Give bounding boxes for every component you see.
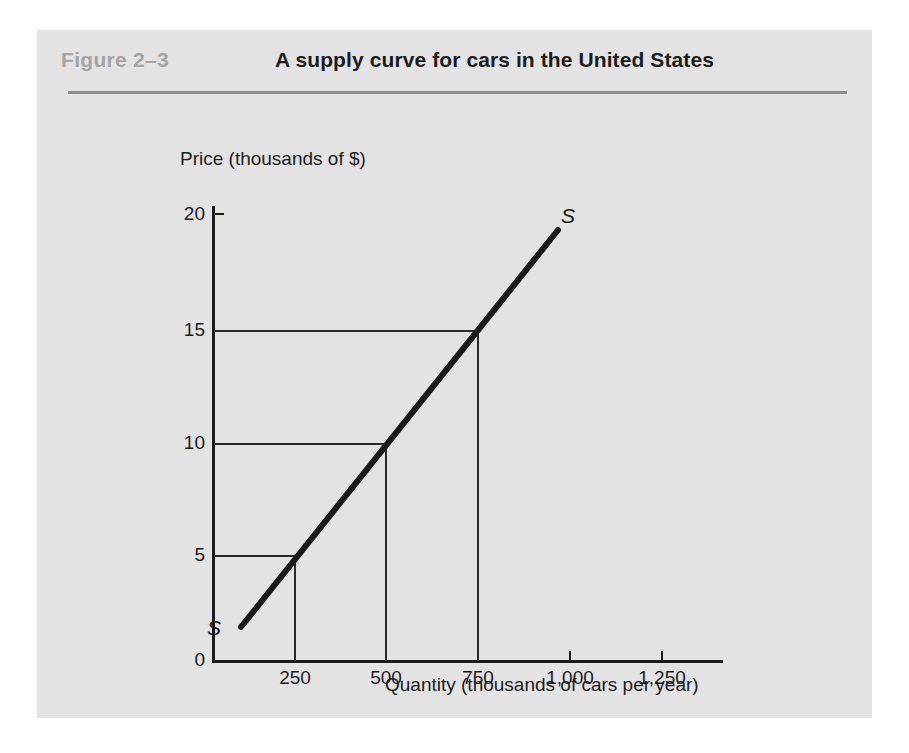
figure-header: Figure 2–3 A supply curve for cars in th…: [37, 30, 872, 100]
chart-plot-area: Price (thousands of $) Quantity (thousan…: [37, 100, 872, 718]
supply-curve-svg: [37, 100, 872, 718]
supply-curve-label-top: S: [561, 204, 575, 228]
figure-title: A supply curve for cars in the United St…: [37, 48, 872, 72]
supply-curve-label-bottom: S: [207, 616, 221, 640]
supply-curve-line: [241, 230, 558, 627]
figure-panel: Figure 2–3 A supply curve for cars in th…: [37, 30, 872, 718]
header-divider: [68, 91, 847, 94]
